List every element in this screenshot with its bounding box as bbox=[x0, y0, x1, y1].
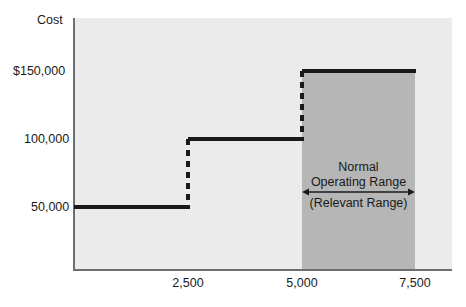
y-tick-label-50000: 50,000 bbox=[31, 200, 69, 214]
y-axis-title: Cost bbox=[37, 13, 63, 27]
x-tick-label-2500: 2,500 bbox=[158, 276, 218, 290]
x-axis-line bbox=[73, 269, 452, 271]
step-line-100000 bbox=[188, 137, 304, 141]
relevant-range-arrow bbox=[302, 184, 415, 196]
x-tick-label-5000: 5,000 bbox=[272, 276, 332, 290]
step-riser-5000 bbox=[300, 71, 304, 139]
relevant-range-label: (Relevant Range) bbox=[302, 196, 415, 211]
normal-operating-range-line1: Normal bbox=[302, 160, 415, 175]
y-axis-line bbox=[73, 18, 75, 270]
step-line-150000 bbox=[302, 69, 416, 73]
y-tick-label-150000: $150,000 bbox=[13, 64, 65, 78]
step-line-50000 bbox=[74, 205, 190, 209]
step-cost-chart: Cost $150,000 100,000 50,000 2,500 5,000… bbox=[0, 0, 466, 307]
x-tick-label-7500: 7,500 bbox=[385, 276, 445, 290]
step-riser-2500 bbox=[186, 139, 190, 207]
y-tick-label-100000: 100,000 bbox=[24, 132, 69, 146]
